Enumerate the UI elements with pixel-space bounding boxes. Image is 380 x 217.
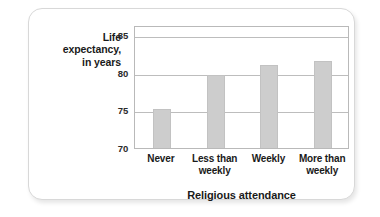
x-tick-label-less-than-weekly: Less than weekly: [184, 153, 246, 177]
x-tick-label-less-than-weekly-line-1: Less than: [184, 153, 246, 165]
x-tick-label-never-line-1: Never: [130, 153, 192, 165]
y-axis-title-line-2: expectancy,: [39, 43, 121, 55]
x-tick-label-weekly-line-1: Weekly: [237, 153, 299, 165]
x-axis-title: Religious attendance: [134, 189, 349, 201]
x-tick-label-more-than-weekly-line-2: weekly: [291, 165, 353, 177]
y-tick-label-75: 75: [102, 105, 128, 116]
x-tick-label-more-than-weekly: More than weekly: [291, 153, 353, 177]
y-tick-label-70: 70: [102, 143, 128, 154]
x-tick-label-weekly: Weekly: [237, 153, 299, 165]
x-tick-label-never: Never: [130, 153, 192, 165]
bar-never: [153, 109, 171, 148]
plot-area: [134, 26, 349, 149]
bar-weekly: [260, 65, 278, 148]
x-tick-label-more-than-weekly-line-1: More than: [291, 153, 353, 165]
y-axis-title-line-3: in years: [39, 56, 121, 68]
bar-more-than-weekly: [314, 61, 332, 148]
figure-card: Life expectancy, in years 85 80 75 70 Ne…: [28, 8, 355, 200]
y-tick-label-80: 80: [102, 68, 128, 79]
y-tick-label-85: 85: [102, 30, 128, 41]
x-tick-label-less-than-weekly-line-2: weekly: [184, 165, 246, 177]
bar-less-than-weekly: [207, 75, 225, 148]
gridline-85: [135, 37, 348, 38]
